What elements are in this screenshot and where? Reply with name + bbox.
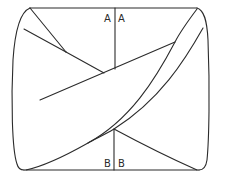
diagonal-top-left-corner (30, 8, 66, 52)
label-b-right: B (118, 158, 125, 169)
diagonal-top-left-inner (24, 29, 66, 52)
left-side-curve (12, 8, 30, 170)
label-a-right: A (118, 13, 125, 24)
fold-diagram: A A B B (0, 0, 229, 177)
long-rising-line (40, 42, 175, 100)
right-side-curve (197, 8, 209, 170)
label-a-left: A (104, 13, 111, 24)
diagonal-to-center (66, 52, 104, 73)
outline (12, 8, 209, 170)
label-b-left: B (104, 158, 111, 169)
sweeping-curve-inner (88, 28, 203, 143)
diagonal-bottom-right (114, 129, 197, 170)
sweeping-curve-outer (26, 9, 197, 170)
